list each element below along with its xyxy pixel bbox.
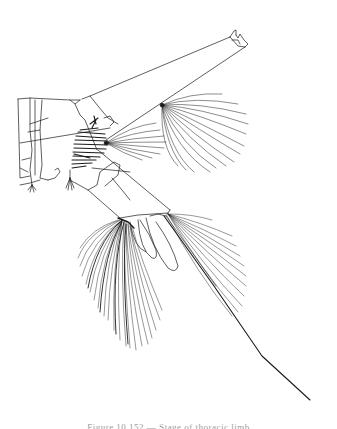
limb-line-drawing [0, 0, 337, 429]
upper-limb [82, 30, 248, 140]
figure-caption: Figure 10.152 — Stage of thoracic limb [0, 420, 337, 429]
scientific-illustration: Figure 10.152 — Stage of thoracic limb [0, 0, 337, 429]
dense-setae-block [72, 116, 108, 168]
long-terminal-seta [164, 216, 310, 400]
joint-setae-fan [104, 123, 166, 160]
upper-setae-fan [160, 94, 248, 172]
lower-dense-setae-fan [78, 218, 162, 350]
